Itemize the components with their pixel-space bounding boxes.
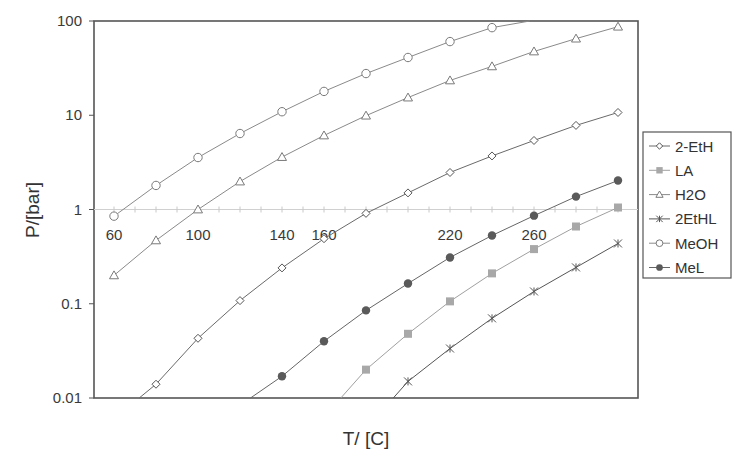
y-tick-label: 0.1 — [61, 295, 82, 312]
legend-label: H2O — [675, 186, 706, 203]
x-tick-label: 260 — [521, 226, 546, 243]
x-tick-label: 60 — [106, 226, 123, 243]
legend-label: 2-EtH — [675, 138, 713, 155]
y-axis-title: P/[bar] — [22, 182, 43, 238]
series-2-eth — [139, 108, 622, 398]
x-tick-label: 140 — [269, 226, 294, 243]
y-tick-label: 1 — [74, 201, 82, 218]
series-la — [341, 204, 622, 398]
chart: 60100140160220260 1001010.10.01 2-EtHLAH… — [0, 0, 750, 458]
legend-label: MeL — [675, 259, 704, 276]
x-tick-label: 100 — [185, 226, 210, 243]
y-tick-label: 0.01 — [53, 389, 82, 406]
legend: 2-EtHLAH2O2EtHLMeOHMeL — [643, 132, 731, 278]
legend-label: 2EtHL — [675, 210, 717, 227]
legend-label: MeOH — [675, 235, 718, 252]
y-tick-label: 10 — [65, 106, 82, 123]
vapor-pressure-chart: 60100140160220260 1001010.10.01 2-EtHLAH… — [0, 0, 750, 458]
series-meoh — [110, 21, 530, 220]
x-axis-title: T/ [C] — [343, 428, 389, 449]
y-axis: 1001010.10.01 — [53, 12, 94, 406]
x-tick-label: 220 — [437, 226, 462, 243]
legend-label: LA — [675, 162, 693, 179]
y-tick-label: 100 — [57, 12, 82, 29]
